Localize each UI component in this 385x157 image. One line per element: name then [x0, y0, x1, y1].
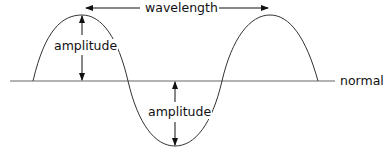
- wavelength-label: wavelength: [144, 1, 219, 15]
- normal-label: normal: [339, 74, 385, 88]
- amplitude-top-label: amplitude: [53, 39, 118, 53]
- amplitude-bottom-label: amplitude: [147, 105, 212, 119]
